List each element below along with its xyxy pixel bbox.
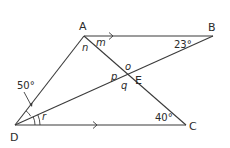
var-label-p: p	[110, 71, 117, 82]
angle-label-50: 50°	[17, 80, 35, 91]
var-label-q: q	[121, 80, 127, 91]
var-label-m: m	[96, 37, 106, 48]
point-label-e: E	[135, 74, 142, 87]
leader-line-50	[24, 92, 31, 105]
angle-label-40: 40°	[155, 112, 173, 123]
angle-arc-r-inner	[33, 117, 35, 125]
var-label-o: o	[125, 61, 131, 72]
var-label-r: r	[42, 111, 47, 122]
point-label-d: D	[10, 131, 18, 144]
var-label-n: n	[82, 42, 88, 53]
angle-arc-50	[26, 111, 31, 116]
geometry-diagram: A B C D E m n o p q r 23° 50° 40°	[0, 0, 230, 148]
angle-label-23: 23°	[174, 39, 192, 50]
point-label-a: A	[79, 20, 87, 33]
point-label-c: C	[189, 120, 197, 133]
point-label-b: B	[208, 21, 216, 34]
angle-arc-r-outer	[38, 115, 40, 125]
